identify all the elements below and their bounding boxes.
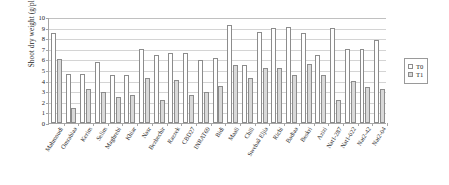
y-tick-label: 3 (42, 89, 45, 96)
bar-t1 (233, 65, 238, 123)
y-tick-label: 5 (42, 68, 45, 75)
bar-group (328, 18, 343, 123)
bar-t1 (277, 68, 282, 123)
bar-t1 (218, 86, 223, 123)
bar-t0 (345, 49, 350, 123)
bar-t0 (227, 25, 232, 123)
bar-t0 (124, 75, 129, 123)
bar-t1 (145, 78, 150, 123)
bar-t0 (183, 53, 188, 123)
bar-t1 (189, 95, 194, 123)
y-tick-label: 6 (42, 57, 45, 64)
legend-item-t0: T0 (408, 64, 423, 71)
bar-group (225, 18, 240, 123)
bar-t1 (307, 64, 312, 123)
bar-group (122, 18, 137, 123)
y-tick-label: 1 (42, 110, 45, 117)
bar-t1 (263, 68, 268, 123)
bar-t0 (139, 49, 144, 123)
x-tick-label: Chili (243, 126, 255, 140)
x-tick-label: Razzek (166, 126, 181, 145)
bar-group (137, 18, 152, 123)
bar-t0 (168, 53, 173, 123)
legend-swatch-icon (408, 64, 413, 69)
bar-group (167, 18, 182, 123)
bar-t1 (204, 92, 209, 123)
bar-group (49, 18, 64, 123)
bar-t0 (315, 55, 320, 123)
bar-t0 (213, 58, 218, 123)
bar-t0 (154, 55, 159, 123)
bar-t1 (351, 81, 356, 123)
x-tick-label: Mahmoudi (44, 126, 64, 153)
x-tick-label: Nat2-42 (356, 126, 372, 147)
bar-group (64, 18, 79, 123)
bar-t0 (374, 40, 379, 123)
bar-group (299, 18, 314, 123)
bar-group (255, 18, 270, 123)
legend-label: T0 (416, 64, 423, 71)
bar-group (211, 18, 226, 123)
bar-t1 (174, 80, 179, 123)
bar-t1 (86, 89, 91, 123)
bar-t1 (116, 97, 121, 124)
bar-t1 (336, 100, 341, 123)
y-tick-label: 0 (42, 121, 45, 128)
bar-group (314, 18, 329, 123)
bar-t0 (286, 27, 291, 123)
y-tick-label: 8 (42, 36, 45, 43)
bar-t1 (71, 108, 76, 123)
bar-t0 (110, 75, 115, 123)
bar-t0 (257, 32, 262, 123)
bar-group (93, 18, 108, 123)
bar-t0 (301, 33, 306, 123)
bar-t0 (198, 60, 203, 123)
bar-t1 (160, 100, 165, 123)
y-axis-title: Shoot dry weight (g/plant) (28, 0, 36, 88)
bar-t0 (271, 28, 276, 123)
bar-t0 (330, 28, 335, 123)
bar-t0 (360, 49, 365, 123)
bar-t0 (95, 62, 100, 123)
bar-group (372, 18, 387, 123)
legend: T0T1 (404, 58, 428, 84)
shoot-dry-weight-bar-chart: Shoot dry weight (g/plant) 012345678910 … (0, 0, 449, 185)
legend-label: T1 (416, 72, 423, 79)
bar-t1 (248, 78, 253, 123)
bar-group (343, 18, 358, 123)
x-axis-labels: MahmoudiOmrabiaaKerimSelimMaghrebiKhiarN… (48, 124, 386, 185)
bar-t1 (380, 89, 385, 123)
bar-group (78, 18, 93, 123)
bar-group (240, 18, 255, 123)
plot-area: 012345678910 (48, 18, 386, 124)
bar-t0 (51, 33, 56, 123)
legend-item-t1: T1 (408, 72, 423, 79)
bar-group (284, 18, 299, 123)
legend-swatch-icon (408, 72, 413, 77)
bar-t1 (321, 75, 326, 123)
bar-t0 (80, 74, 85, 123)
bar-group (196, 18, 211, 123)
y-tick-label: 4 (42, 78, 45, 85)
bar-t1 (292, 75, 297, 123)
x-tick-label: Azizi (316, 126, 329, 141)
x-tick-label: Kerim (79, 126, 93, 143)
y-tick-label: 2 (42, 100, 45, 107)
x-tick-label: Richi (272, 126, 285, 141)
x-tick-label: Beskri (300, 126, 314, 143)
bar-t1 (365, 87, 370, 123)
bar-t1 (130, 95, 135, 123)
x-tick-label: Nat2-04 (371, 126, 387, 147)
bar-group (269, 18, 284, 123)
y-tick-label: 9 (42, 25, 45, 32)
bar-group (108, 18, 123, 123)
bar-t0 (66, 74, 71, 123)
bar-t0 (242, 65, 247, 123)
bar-group (152, 18, 167, 123)
bar-group (358, 18, 373, 123)
x-tick-label: Badiaa (284, 126, 299, 144)
x-tick-label: Maali (227, 126, 240, 142)
x-tick-label: Khiar (124, 126, 137, 142)
x-tick-label: Bidi (214, 126, 225, 139)
bar-t1 (101, 92, 106, 123)
